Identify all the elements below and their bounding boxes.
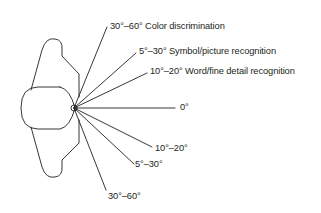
line-upper-color [74,27,107,108]
label-center: 0° [180,103,189,112]
label-lower-word: 10°–20° [155,144,188,153]
line-lower-symbol [74,108,134,164]
label-upper-symbol: 5°–30° Symbol/picture recognition [139,47,276,56]
visual-field-diagram [0,0,321,213]
line-lower-color [74,108,106,190]
line-upper-word [74,73,147,108]
label-upper-color: 30°–60° Color discrimination [110,22,225,31]
line-upper-symbol [74,53,136,108]
label-lower-color: 30°–60° [108,192,141,201]
head-outline [21,87,75,129]
line-lower-word [74,108,152,147]
label-upper-word: 10°–20° Word/fine detail recognition [150,67,295,76]
label-lower-symbol: 5°–30° [135,160,163,169]
body-outline-top [31,39,79,97]
